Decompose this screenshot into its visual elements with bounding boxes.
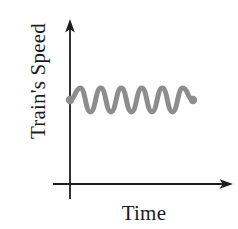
curve-end-marker (189, 96, 197, 104)
x-axis-label: Time (69, 199, 219, 227)
curve-start-marker (66, 96, 74, 104)
chart-figure: Train's Speed Time (0, 0, 238, 229)
y-axis-label: Train's Speed (25, 6, 51, 156)
speed-curve (70, 88, 193, 112)
